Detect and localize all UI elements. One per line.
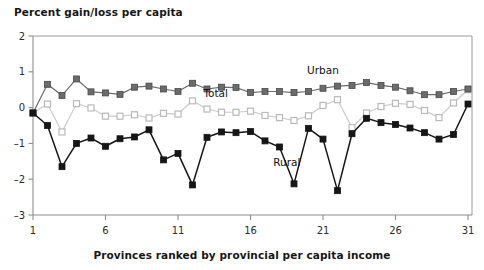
data-point-urban (161, 86, 167, 92)
data-point-total (349, 125, 355, 131)
data-point-rural (262, 138, 268, 144)
data-point-urban (320, 85, 326, 91)
x-axis-tick-label: 1 (30, 225, 36, 236)
series-label-urban: Urban (307, 64, 339, 76)
data-point-urban (306, 88, 312, 94)
data-point-urban (262, 88, 268, 94)
data-point-rural (378, 120, 384, 126)
data-point-total (219, 109, 225, 115)
data-point-rural (175, 150, 181, 156)
data-point-urban (74, 76, 80, 82)
data-point-rural (103, 143, 109, 149)
x-axis-tick-label: 21 (317, 225, 330, 236)
data-point-rural (59, 164, 65, 170)
data-point-total (161, 110, 167, 116)
y-axis-tick-label: –2 (14, 174, 25, 185)
data-point-urban (132, 84, 138, 90)
data-point-urban (233, 85, 239, 91)
data-point-urban (190, 80, 196, 86)
data-point-total (45, 101, 51, 107)
y-axis-tick-label: 2 (19, 31, 25, 42)
data-point-rural (277, 144, 283, 150)
data-point-total (204, 106, 210, 112)
data-point-urban (248, 90, 254, 96)
series-label-rural: Rural (273, 156, 300, 168)
data-point-total (132, 112, 138, 118)
data-point-rural (88, 135, 94, 141)
data-point-rural (393, 121, 399, 127)
data-point-urban (364, 80, 370, 86)
data-point-total (277, 115, 283, 121)
x-axis-tick-label: 6 (102, 225, 108, 236)
data-point-total (407, 101, 413, 107)
data-point-rural (451, 131, 457, 137)
data-point-rural (30, 110, 36, 116)
data-point-urban (45, 81, 51, 87)
line-chart-plot: 210–1–2–3161116212631UrbanTotalRural (0, 0, 484, 270)
data-point-urban (422, 92, 428, 98)
chart-figure: Percent gain/loss per capita 210–1–2–316… (0, 0, 484, 270)
x-axis-tick-label: 26 (389, 225, 402, 236)
data-point-rural (306, 125, 312, 131)
data-point-urban (59, 92, 65, 98)
y-axis-tick-label: –1 (14, 138, 25, 149)
data-point-urban (117, 91, 123, 97)
data-point-urban (465, 86, 471, 92)
data-point-urban (451, 88, 457, 94)
data-point-rural (161, 157, 167, 163)
data-point-urban (146, 83, 152, 89)
data-point-urban (436, 92, 442, 98)
data-point-rural (407, 125, 413, 131)
data-point-total (248, 108, 254, 114)
data-point-urban (291, 90, 297, 96)
data-point-rural (465, 101, 471, 107)
data-point-rural (291, 181, 297, 187)
data-point-total (335, 97, 341, 103)
data-point-rural (146, 127, 152, 133)
data-point-urban (277, 88, 283, 94)
data-point-urban (335, 83, 341, 89)
data-point-rural (248, 129, 254, 135)
data-point-total (74, 101, 80, 107)
data-point-rural (349, 131, 355, 137)
data-point-rural (422, 130, 428, 136)
x-axis-tick-label: 31 (462, 225, 475, 236)
data-point-total (262, 112, 268, 118)
data-point-rural (45, 123, 51, 129)
data-point-urban (393, 84, 399, 90)
data-point-total (451, 100, 457, 106)
data-point-total (233, 109, 239, 115)
series-line-rural (33, 104, 468, 191)
data-point-total (175, 111, 181, 117)
data-point-total (422, 107, 428, 113)
data-point-rural (335, 188, 341, 194)
data-point-rural (74, 140, 80, 146)
data-point-total (103, 113, 109, 119)
data-point-urban (103, 90, 109, 96)
data-point-rural (117, 136, 123, 142)
data-point-rural (132, 134, 138, 140)
data-point-rural (320, 136, 326, 142)
data-point-total (393, 100, 399, 106)
series-label-total: Total (202, 87, 228, 99)
data-point-rural (204, 134, 210, 140)
data-point-total (378, 104, 384, 110)
x-axis-tick-label: 11 (172, 225, 185, 236)
series-rural (30, 101, 471, 194)
data-point-total (306, 113, 312, 119)
y-axis-tick-label: –3 (14, 210, 25, 221)
data-point-total (291, 117, 297, 123)
data-point-total (59, 129, 65, 135)
data-point-urban (378, 82, 384, 88)
data-point-total (320, 102, 326, 108)
data-point-urban (88, 89, 94, 95)
data-point-rural (436, 136, 442, 142)
y-axis-tick-label: 1 (19, 66, 25, 77)
data-point-rural (190, 182, 196, 188)
data-point-rural (219, 129, 225, 135)
data-point-urban (349, 82, 355, 88)
x-axis-tick-label: 16 (244, 225, 257, 236)
data-point-urban (407, 88, 413, 94)
data-point-total (190, 98, 196, 104)
x-axis-title: Provinces ranked by provincial per capit… (0, 249, 484, 261)
